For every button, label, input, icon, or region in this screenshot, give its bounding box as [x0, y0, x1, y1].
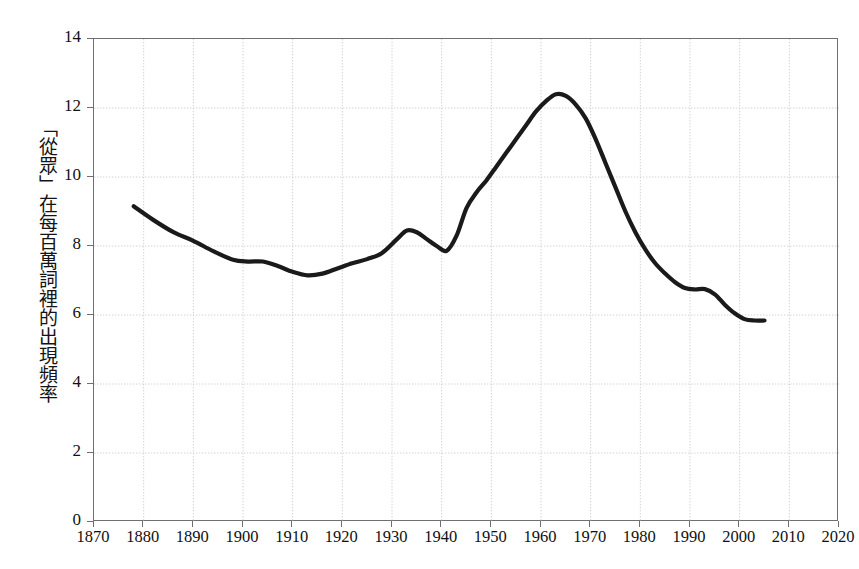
y-tick-mark	[87, 176, 93, 177]
plot-area	[93, 38, 838, 521]
y-tick-label: 12	[51, 96, 81, 116]
data-line	[94, 39, 839, 522]
y-tick-mark	[87, 38, 93, 39]
y-tick-label: 6	[51, 303, 81, 323]
x-tick-mark	[440, 521, 441, 527]
x-tick-mark	[788, 521, 789, 527]
x-tick-mark	[391, 521, 392, 527]
x-tick-mark	[291, 521, 292, 527]
y-tick-label: 8	[51, 234, 81, 254]
x-tick-mark	[490, 521, 491, 527]
y-tick-label: 10	[51, 165, 81, 185]
chart-title	[0, 0, 850, 2]
x-tick-mark	[242, 521, 243, 527]
x-tick-mark	[142, 521, 143, 527]
y-tick-label: 14	[51, 27, 81, 47]
x-tick-mark	[689, 521, 690, 527]
x-tick-mark	[738, 521, 739, 527]
y-tick-mark	[87, 452, 93, 453]
x-tick-label: 2020	[808, 527, 859, 547]
x-tick-mark	[192, 521, 193, 527]
x-tick-mark	[838, 521, 839, 527]
y-tick-mark	[87, 245, 93, 246]
y-tick-label: 4	[51, 372, 81, 392]
y-tick-mark	[87, 107, 93, 108]
x-tick-mark	[639, 521, 640, 527]
x-tick-mark	[540, 521, 541, 527]
y-tick-label: 2	[51, 441, 81, 461]
x-tick-mark	[341, 521, 342, 527]
x-tick-mark	[93, 521, 94, 527]
y-tick-mark	[87, 314, 93, 315]
x-tick-mark	[589, 521, 590, 527]
y-tick-mark	[87, 383, 93, 384]
